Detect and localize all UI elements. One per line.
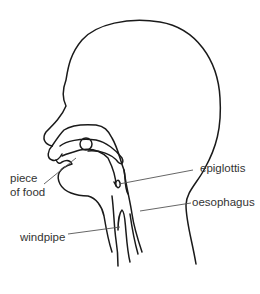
head-throat-diagram (0, 0, 260, 294)
leader-windpipe (68, 227, 120, 234)
label-windpipe: windpipe (20, 231, 65, 244)
upper-lip (48, 146, 62, 161)
label-oesophagus: oesophagus (192, 196, 255, 209)
leader-epiglottis (119, 170, 193, 184)
leader-oesophagus (140, 203, 191, 211)
leader-piece-of-food (44, 158, 76, 184)
label-epiglottis: epiglottis (200, 162, 245, 175)
windpipe-front (112, 196, 118, 266)
windpipe-back (118, 210, 130, 262)
label-piece-of-food-line1: piece (10, 172, 38, 185)
label-piece-of-food-line2: of food (10, 186, 45, 199)
